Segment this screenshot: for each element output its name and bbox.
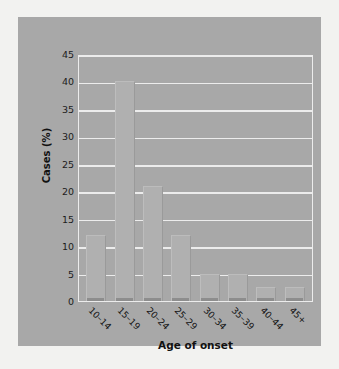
bar-slot <box>143 56 163 301</box>
x-tick-slot: 35–39 <box>228 304 248 344</box>
x-axis-tick-label: 30–34 <box>201 306 227 332</box>
y-axis-tick-label: 30 <box>52 133 74 143</box>
bar[interactable] <box>86 235 106 301</box>
y-axis-tick-labels: 454035302520151050 <box>49 55 74 302</box>
page-background: Cases (%) 454035302520151050 10–1415–192… <box>0 0 339 369</box>
x-tick-slot: 45+ <box>286 304 306 344</box>
bar[interactable] <box>115 81 135 301</box>
x-tick-slot: 30–34 <box>200 304 220 344</box>
y-axis-tick-label: 45 <box>52 50 74 60</box>
x-tick-slot: 10–14 <box>85 304 105 344</box>
y-axis-tick-label: 5 <box>52 270 74 280</box>
y-axis-tick-label: 10 <box>52 242 74 252</box>
bar[interactable] <box>228 274 248 301</box>
bar[interactable] <box>285 287 305 301</box>
bar-slot <box>285 56 305 301</box>
plot-area <box>78 55 313 302</box>
y-axis-tick-label: 0 <box>52 297 74 307</box>
bar[interactable] <box>171 235 191 301</box>
x-tick-slot: 15–19 <box>114 304 134 344</box>
x-axis-tick-label: 15–19 <box>116 306 142 332</box>
y-axis-tick-label: 40 <box>52 78 74 88</box>
bar-slot <box>86 56 106 301</box>
bar[interactable] <box>143 186 163 301</box>
x-axis-tick-labels: 10–1415–1920–2425–2930–3435–3940–4445+ <box>78 304 313 344</box>
x-axis-tick-label: 20–24 <box>144 306 170 332</box>
y-axis-tick-label: 25 <box>52 160 74 170</box>
y-axis-tick-label: 15 <box>52 215 74 225</box>
x-axis-title: Age of onset <box>78 339 313 351</box>
bar-slot <box>256 56 276 301</box>
y-axis-tick-label: 20 <box>52 187 74 197</box>
x-axis-tick-label: 40–44 <box>259 306 285 332</box>
bar-slot <box>115 56 135 301</box>
bar-slot <box>228 56 248 301</box>
x-tick-slot: 20–24 <box>143 304 163 344</box>
x-tick-slot: 25–29 <box>171 304 191 344</box>
bars-layer <box>79 56 312 301</box>
x-axis-tick-label: 10–14 <box>87 306 113 332</box>
y-axis-tick-label: 35 <box>52 105 74 115</box>
x-axis-tick-label: 25–29 <box>173 306 199 332</box>
x-tick-slot: 40–44 <box>257 304 277 344</box>
chart-figure-panel: Cases (%) 454035302520151050 10–1415–192… <box>18 17 321 346</box>
bar-slot <box>171 56 191 301</box>
bar[interactable] <box>256 287 276 301</box>
x-axis-tick-label: 45+ <box>287 306 307 326</box>
bar-slot <box>200 56 220 301</box>
x-axis-tick-label: 35–39 <box>230 306 256 332</box>
bar[interactable] <box>200 274 220 301</box>
